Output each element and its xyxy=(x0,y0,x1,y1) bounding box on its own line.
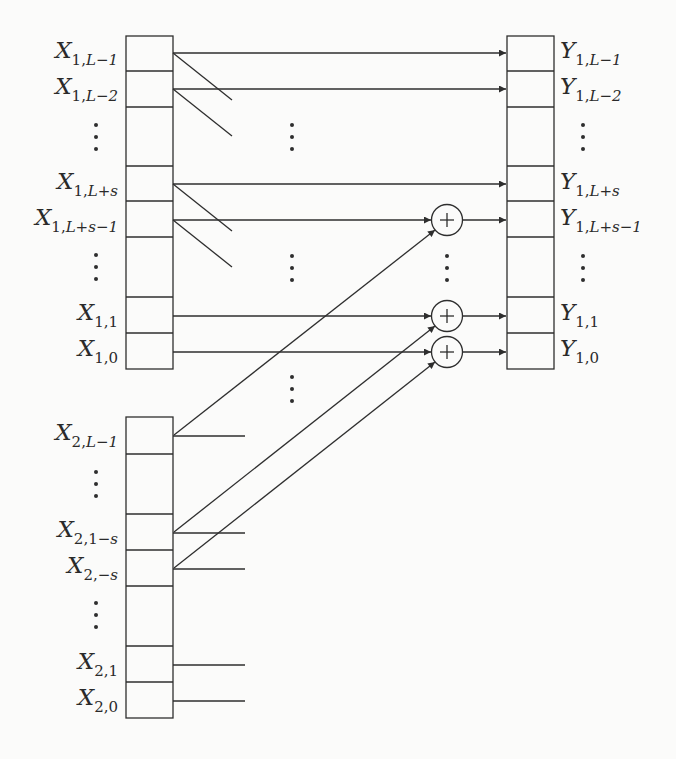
sub-var: L+s−1 xyxy=(590,218,642,236)
label-sub: 1,L+s xyxy=(575,182,620,200)
sub-index: 1, xyxy=(72,87,86,105)
label-x1-L-2: X1,L−2 xyxy=(0,75,118,98)
sub-index: 2,− xyxy=(83,566,110,584)
register-diagram xyxy=(0,0,676,759)
sub-index: 1, xyxy=(51,218,65,236)
sub-var: L+s xyxy=(88,182,118,200)
label-y-L-2: Y1,L−2 xyxy=(560,75,622,98)
label-y-1: Y1,1 xyxy=(560,301,599,324)
label-base: Y xyxy=(560,204,575,230)
direct-connections xyxy=(173,53,506,184)
sub-index: 2, xyxy=(72,433,86,451)
label-sub: 2,−s xyxy=(83,566,118,584)
sub-var: L−2 xyxy=(590,87,622,105)
label-base: X xyxy=(55,419,71,445)
label-sub: 1,L+s−1 xyxy=(51,218,118,236)
label-base: X xyxy=(78,299,94,325)
adder-input-connections xyxy=(173,220,506,352)
label-sub: 1,L+s−1 xyxy=(575,218,642,236)
label-base: Y xyxy=(560,37,575,63)
sub-var: L+s−1 xyxy=(66,218,118,236)
label-base: X xyxy=(78,335,94,361)
label-x1-L-1: X1,L−1 xyxy=(0,39,118,62)
label-base: Y xyxy=(560,335,575,361)
input-register-1 xyxy=(126,36,173,369)
output-register xyxy=(507,36,554,369)
label-base: X xyxy=(55,37,71,63)
label-y-0: Y1,0 xyxy=(560,337,599,360)
sub-index: 1, xyxy=(575,87,589,105)
adder-3 xyxy=(432,337,463,368)
sub-index: 1, xyxy=(575,182,589,200)
ellipsis-dots xyxy=(94,123,585,629)
label-x2-neg-s: X2,−s xyxy=(0,554,118,577)
adder-1 xyxy=(432,205,463,236)
label-x1-L+s: X1,L+s xyxy=(0,170,118,193)
label-sub: 1,L−1 xyxy=(575,51,621,69)
label-x2-1: X2,1 xyxy=(0,650,118,673)
cross-connections xyxy=(174,230,435,568)
shifted-out-lines xyxy=(173,53,232,267)
label-x2-1-s: X2,1−s xyxy=(0,518,118,541)
sub-var: L−1 xyxy=(86,51,118,69)
sub-index: 1, xyxy=(72,51,86,69)
sub-var: s xyxy=(110,530,118,548)
sub-var: s xyxy=(110,566,118,584)
label-sub: 2,1 xyxy=(94,662,118,680)
label-sub: 1,L−1 xyxy=(72,51,118,69)
label-sub: 1,1 xyxy=(575,313,599,331)
adder-2 xyxy=(432,301,463,332)
sub-var: L−1 xyxy=(590,51,622,69)
label-base: X xyxy=(57,516,73,542)
sub-index: 1, xyxy=(73,182,87,200)
label-base: X xyxy=(67,552,83,578)
label-sub: 2,0 xyxy=(94,698,118,716)
label-base: Y xyxy=(560,299,575,325)
label-x1-0: X1,0 xyxy=(0,337,118,360)
input-register-2 xyxy=(126,417,173,718)
label-sub: 1,L−2 xyxy=(72,87,118,105)
label-sub: 1,L−2 xyxy=(575,87,621,105)
label-base: X xyxy=(55,73,71,99)
label-sub: 1,1 xyxy=(94,313,118,331)
sub-var: L−2 xyxy=(86,87,118,105)
label-sub: 1,0 xyxy=(575,349,599,367)
label-y-L-1: Y1,L−1 xyxy=(560,39,622,62)
label-x1-1: X1,1 xyxy=(0,301,118,324)
label-sub: 2,1−s xyxy=(74,530,118,548)
label-base: X xyxy=(35,204,51,230)
label-base: X xyxy=(78,684,94,710)
sub-index: 1, xyxy=(575,51,589,69)
label-base: X xyxy=(78,648,94,674)
sub-var: L+s xyxy=(590,182,620,200)
label-x2-0: X2,0 xyxy=(0,686,118,709)
label-y-L+s-1: Y1,L+s−1 xyxy=(560,206,642,229)
sub-index: 2,1− xyxy=(74,530,110,548)
sub-var: L−1 xyxy=(86,433,118,451)
label-base: X xyxy=(57,168,73,194)
label-sub: 1,0 xyxy=(94,349,118,367)
sub-index: 1, xyxy=(575,218,589,236)
label-sub: 1,L+s xyxy=(73,182,118,200)
label-base: Y xyxy=(560,168,575,194)
label-x2-L-1: X2,L−1 xyxy=(0,421,118,444)
label-x1-L+s-1: X1,L+s−1 xyxy=(0,206,118,229)
label-y-L+s: Y1,L+s xyxy=(560,170,620,193)
label-sub: 2,L−1 xyxy=(72,433,118,451)
label-base: Y xyxy=(560,73,575,99)
register-2-stubs xyxy=(173,436,245,701)
